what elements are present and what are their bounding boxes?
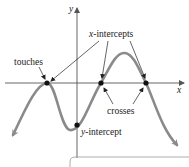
cross-point-1: [98, 80, 103, 85]
touches-label: touches: [14, 58, 43, 68]
y-axis-label: y: [69, 5, 73, 15]
y-intercept-label: y-intercept: [81, 128, 122, 138]
y-intercept-point: [74, 122, 79, 127]
cross-point-2: [143, 80, 148, 85]
crosses-pointer-2: [133, 88, 143, 104]
touch-point: [44, 80, 49, 85]
x-intercepts-label: x-intercepts: [89, 30, 133, 40]
polynomial-intercepts-diagram: y x x-intercepts touches crosses y-inter…: [0, 0, 189, 167]
caption-box-edge: [70, 157, 189, 167]
touches-pointer: [39, 67, 45, 79]
x-intercepts-pointer-1: [51, 41, 99, 81]
graph-canvas: [0, 0, 189, 167]
crosses-label: crosses: [107, 107, 134, 117]
crosses-pointer-1: [104, 88, 113, 104]
x-axis-label: x: [177, 86, 181, 96]
